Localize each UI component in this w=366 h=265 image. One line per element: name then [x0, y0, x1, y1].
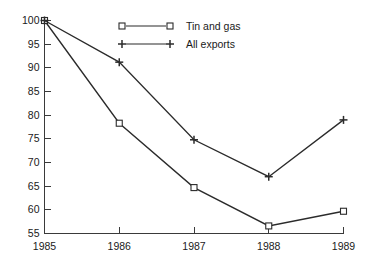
data-point-marker [341, 208, 347, 214]
x-tick-label: 1985 [33, 240, 57, 252]
y-tick-label: 60 [28, 203, 40, 215]
y-tick-label: 55 [28, 227, 40, 239]
y-tick-label: 90 [28, 61, 40, 73]
x-tick-label: 1988 [257, 240, 281, 252]
legend-marker [167, 23, 173, 29]
chart-legend: Tin and gasAll exports [118, 20, 240, 50]
legend-marker [118, 40, 126, 48]
data-point-marker [191, 185, 197, 191]
data-point-marker [266, 223, 272, 229]
data-point-marker [116, 120, 122, 126]
chart-canvas: 556065707580859095100 198519861987198819… [0, 0, 366, 265]
x-tick-label: 1986 [108, 240, 132, 252]
y-tick-label: 100 [22, 14, 40, 26]
legend-marker [166, 40, 174, 48]
legend-marker [119, 23, 125, 29]
line-chart: 556065707580859095100 198519861987198819… [0, 0, 366, 265]
y-tick-label: 65 [28, 180, 40, 192]
legend-entry: Tin and gas [119, 20, 240, 32]
x-tick-label: 1989 [332, 240, 356, 252]
y-axis-ticks: 556065707580859095100 [22, 14, 51, 239]
y-tick-label: 80 [28, 109, 40, 121]
series-line [45, 21, 344, 226]
x-axis-ticks: 19851986198719881989 [33, 227, 356, 252]
legend-label: All exports [186, 38, 235, 50]
axes-group [45, 21, 344, 234]
y-tick-label: 70 [28, 156, 40, 168]
y-tick-label: 75 [28, 132, 40, 144]
y-tick-label: 95 [28, 38, 40, 50]
y-tick-label: 85 [28, 85, 40, 97]
legend-entry: All exports [118, 38, 235, 50]
legend-label: Tin and gas [186, 20, 240, 32]
x-tick-label: 1987 [182, 240, 206, 252]
